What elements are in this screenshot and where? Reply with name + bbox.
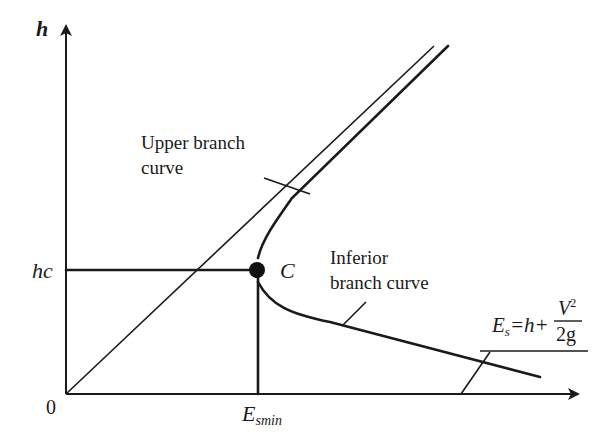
inferior-branch-label-line1: Inferior bbox=[330, 247, 389, 268]
specific-energy-formula: Es=h+ V2 2g bbox=[491, 296, 582, 346]
svg-text:Es=h+: Es=h+ bbox=[491, 313, 549, 339]
inferior-branch-leader bbox=[342, 302, 366, 326]
specific-energy-diagram: h 0 hc C Esmin Upper branch curve Inferi… bbox=[0, 0, 614, 446]
critical-point bbox=[249, 262, 265, 278]
upper-branch-label-line1: Upper branch bbox=[141, 132, 245, 153]
diagonal-line bbox=[66, 46, 434, 394]
critical-point-label: C bbox=[280, 258, 295, 283]
origin-label: 0 bbox=[46, 396, 56, 418]
svg-text:2g: 2g bbox=[556, 323, 576, 346]
svg-text:V2: V2 bbox=[558, 296, 576, 319]
inferior-branch-label-line2: branch curve bbox=[330, 272, 429, 293]
upper-branch-label-line2: curve bbox=[141, 157, 183, 178]
esmin-label: Esmin bbox=[241, 401, 282, 428]
upper-branch-curve bbox=[258, 46, 448, 258]
y-axis-label: h bbox=[36, 16, 48, 41]
hc-label: hc bbox=[32, 258, 53, 283]
